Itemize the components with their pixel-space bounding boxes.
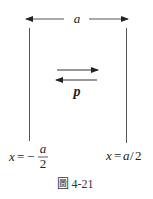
left-label-x: x — [8, 149, 15, 164]
left-wall-label: x = − a 2 — [8, 141, 48, 171]
right-label-x: x — [105, 148, 112, 163]
dimension-label: a — [74, 11, 81, 26]
left-label-eq: = — [17, 149, 24, 164]
left-label-denominator: 2 — [40, 156, 47, 171]
figure-caption: 圖 4-21 — [57, 177, 94, 191]
left-label-minus: − — [27, 149, 34, 164]
right-label-a: a — [123, 148, 130, 163]
right-label-slash: / — [130, 148, 134, 163]
right-wall-label: x = a / 2 — [105, 148, 142, 163]
momentum-label: p — [73, 84, 81, 99]
right-label-eq: = — [114, 148, 121, 163]
infinite-well-diagram: a p x = − a 2 x = a / 2 圖 4-21 — [0, 0, 153, 199]
right-label-2: 2 — [135, 148, 142, 163]
left-label-numerator: a — [40, 141, 47, 156]
